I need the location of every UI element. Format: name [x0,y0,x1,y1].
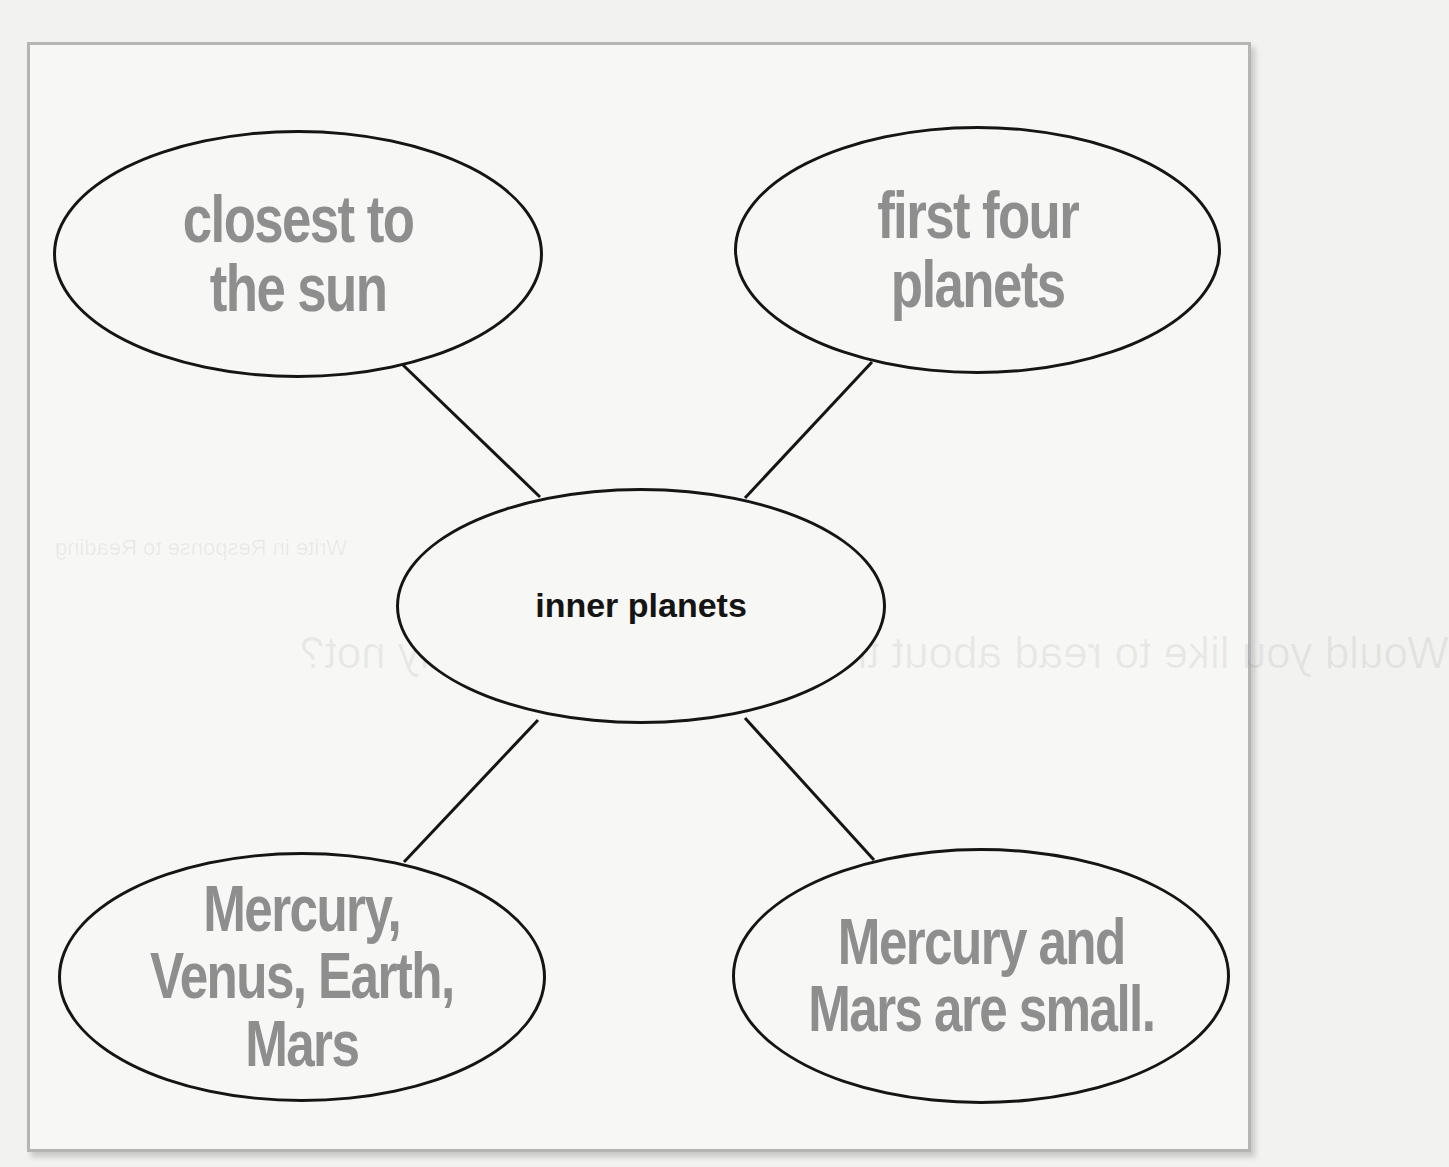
connector-top-left [403,365,540,497]
node-mercury-venus-earth-mars: Mercury, Venus, Earth, Mars [58,852,546,1102]
node-first-four-planets: first four planets [734,126,1221,374]
connector-bottom-right [745,718,874,860]
node-label: first four planets [877,181,1078,320]
node-mercury-and-mars-are-small: Mercury and Mars are small. [732,848,1230,1104]
center-label: inner planets [535,588,747,624]
connector-top-right [745,362,872,498]
node-label: Mercury, Venus, Earth, Mars [150,876,454,1078]
node-inner-planets: inner planets [396,488,886,724]
connector-bottom-left [404,720,538,862]
node-closest-to-the-sun: closest to the sun [53,130,543,378]
node-label: closest to the sun [183,185,413,324]
node-label: Mercury and Mars are small. [808,909,1154,1043]
